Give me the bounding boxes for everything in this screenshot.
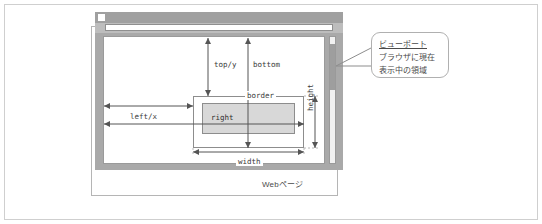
browser-titlebar (95, 12, 343, 23)
address-bar[interactable] (105, 24, 333, 31)
callout-line-2: 表示中の領域 (379, 64, 427, 75)
viewport-coordinates-diagram: top/y bottom left/x width height border … (0, 0, 542, 224)
callout-line-1: ブラウザに現在 (379, 51, 435, 62)
label-bottom: bottom (251, 60, 282, 69)
window-icon (98, 14, 105, 21)
vertical-scrollbar-thumb[interactable] (330, 44, 335, 90)
label-border: border (245, 91, 276, 100)
label-top-y: top/y (212, 60, 239, 69)
label-width: width (236, 157, 263, 166)
callout-title: ビューポート (379, 38, 427, 49)
viewport-callout: ビューポート ブラウザに現在 表示中の領域 (371, 32, 449, 78)
label-right: right (211, 113, 234, 122)
label-height: height (306, 82, 315, 113)
label-webpage: Webページ (262, 178, 304, 189)
label-left-x: left/x (128, 112, 159, 121)
